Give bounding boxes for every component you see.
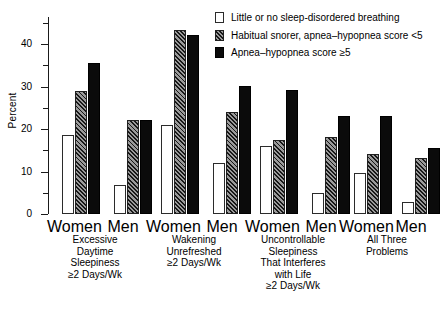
bar-women-little-or-no[interactable]	[62, 135, 74, 214]
bar-subgroup-men	[114, 17, 154, 214]
bar-subgroup-women	[62, 17, 102, 214]
legend-swatch-black-icon	[215, 47, 224, 58]
bar-women-little-or-no[interactable]	[354, 173, 366, 214]
bar-women-apnea-hypopnea[interactable]	[187, 35, 199, 214]
y-ticklabel-10: 10	[21, 167, 32, 177]
category-caption-group3: Uncontrollable Sleepiness That Interfere…	[238, 234, 348, 292]
bar-group-excessive-daytime-sleepiness	[62, 17, 158, 214]
y-tick-minor-35	[43, 65, 48, 66]
y-tick-0: 0	[41, 214, 48, 215]
y-tick-minor-15	[43, 150, 48, 151]
y-tick-30: 30	[41, 87, 48, 88]
bar-women-little-or-no[interactable]	[161, 125, 173, 214]
bar-subgroup-women	[161, 17, 201, 214]
bar-men-apnea-hypopnea[interactable]	[140, 120, 152, 214]
y-ticklabel-20: 20	[21, 124, 32, 134]
bar-women-habitual-snorer[interactable]	[367, 154, 379, 214]
legend-label: Habitual snorer, apnea–hypopnea score <5	[231, 30, 423, 41]
y-ticklabel-30: 30	[21, 82, 32, 92]
bar-men-little-or-no[interactable]	[213, 163, 225, 214]
bar-women-habitual-snorer[interactable]	[75, 91, 87, 214]
bar-women-apnea-hypopnea[interactable]	[88, 63, 100, 214]
y-tick-40: 40	[41, 44, 48, 45]
legend-item-habitual-snorer[interactable]: Habitual snorer, apnea–hypopnea score <5	[215, 30, 423, 41]
bar-men-little-or-no[interactable]	[312, 193, 324, 214]
bar-men-little-or-no[interactable]	[402, 202, 414, 214]
legend-item-apnea-hypopnea-score-5-or-more[interactable]: Apnea–hypopnea score ≥5	[215, 47, 423, 58]
bar-women-habitual-snorer[interactable]	[273, 140, 285, 214]
bar-women-apnea-hypopnea[interactable]	[286, 90, 298, 214]
category-caption-group1: Excessive Daytime Sleepiness ≥2 Days/Wk	[40, 234, 150, 280]
bar-women-habitual-snorer[interactable]	[174, 30, 186, 214]
bar-women-apnea-hypopnea[interactable]	[380, 116, 392, 214]
y-ticklabel-0: 0	[26, 209, 32, 219]
bar-men-apnea-hypopnea[interactable]	[239, 86, 251, 214]
y-axis-label: Percent	[7, 81, 18, 141]
bar-men-habitual-snorer[interactable]	[415, 158, 427, 214]
bar-chart-figure: Percent 40 30 20 10 0	[0, 0, 443, 309]
y-tick-10: 10	[41, 172, 48, 173]
legend-item-little-or-no-sleep-disordered-breathing[interactable]: Little or no sleep-disordered breathing	[215, 12, 423, 23]
bar-men-habitual-snorer[interactable]	[325, 137, 337, 214]
category-caption-group2: Wakening Unrefreshed ≥2 Days/Wk	[139, 234, 249, 269]
bar-men-little-or-no[interactable]	[114, 185, 126, 214]
y-ticklabel-40: 40	[21, 39, 32, 49]
y-tick-minor-5	[43, 193, 48, 194]
y-tick-20: 20	[41, 129, 48, 130]
bar-men-habitual-snorer[interactable]	[127, 120, 139, 214]
bar-men-apnea-hypopnea[interactable]	[338, 116, 350, 214]
y-tick-minor-45	[43, 23, 48, 24]
legend-label: Apnea–hypopnea score ≥5	[231, 47, 350, 58]
category-caption-group4: All Three Problems	[335, 234, 439, 257]
legend-label: Little or no sleep-disordered breathing	[231, 12, 399, 23]
legend-swatch-hatched-icon	[215, 30, 224, 41]
bar-men-habitual-snorer[interactable]	[226, 112, 238, 215]
legend-swatch-white-icon	[215, 12, 224, 23]
bar-women-little-or-no[interactable]	[260, 146, 272, 214]
chart-legend: Little or no sleep-disordered breathing …	[215, 12, 423, 65]
y-axis-line	[48, 17, 49, 214]
bar-men-apnea-hypopnea[interactable]	[428, 148, 440, 214]
y-tick-minor-25	[43, 108, 48, 109]
